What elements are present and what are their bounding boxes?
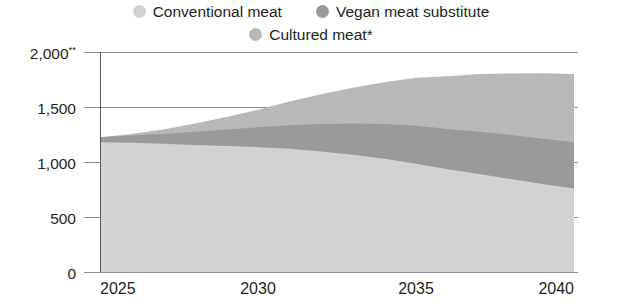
- x-tick-label-2040: 2040: [538, 280, 574, 297]
- x-tick-label-2035: 2035: [398, 280, 434, 297]
- area-series-group: [100, 73, 574, 272]
- y-tick-footnote-marker: **: [69, 44, 77, 55]
- plot-area-wrapper: 2,000**1,5001,0005000 2025203020352040: [0, 0, 622, 304]
- plot-svg: 2,000**1,5001,0005000 2025203020352040: [0, 0, 622, 304]
- y-tick-label-1500: 1,500: [37, 100, 76, 117]
- x-tick-label-2030: 2030: [240, 280, 276, 297]
- x-tick-label-2025: 2025: [100, 280, 136, 297]
- y-tick-label-2000: 2,000**: [30, 44, 76, 62]
- x-axis-ticks: 2025203020352040: [100, 280, 574, 297]
- y-tick-label-500: 500: [50, 210, 76, 227]
- y-tick-label-0: 0: [67, 265, 76, 282]
- y-axis-ticks: 2,000**1,5001,0005000: [30, 44, 77, 282]
- y-tick-label-1000: 1,000: [37, 155, 76, 172]
- stacked-area-chart: Conventional meat Vegan meat substitute …: [0, 0, 622, 304]
